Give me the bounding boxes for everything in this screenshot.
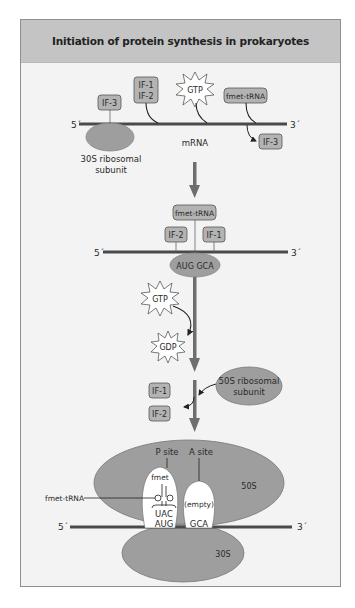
if3-label: IF-3 bbox=[102, 99, 117, 108]
large-subunit-label: 50S bbox=[241, 482, 256, 491]
gtp-connector bbox=[196, 103, 207, 123]
released-if1-label: IF-1 bbox=[152, 387, 167, 396]
codon-label: AUG GCA bbox=[176, 262, 214, 271]
if3-release-arrow bbox=[247, 125, 256, 141]
three-prime-label: 3´ bbox=[290, 120, 300, 130]
three-prime-label-4: 3´ bbox=[297, 522, 307, 532]
small-subunit-label: 30S bbox=[215, 550, 230, 559]
progress-arrow-2-head bbox=[189, 358, 200, 372]
if1-label: IF-1 bbox=[139, 81, 154, 90]
step-1-assembly: 5´ 3´ 30S ribosomal subunit IF-3 IF-1 IF… bbox=[71, 72, 300, 175]
progress-arrow-1 bbox=[189, 162, 200, 198]
fmet-trna-connector bbox=[246, 103, 256, 123]
step-2-initiation-complex: 5´ 3´ fmet-tRNA IF-2 IF-1 AUG GCA GTP GD… bbox=[94, 205, 301, 372]
if1-label-2: IF-1 bbox=[207, 231, 222, 240]
gdp-label: GDP bbox=[159, 343, 176, 352]
p-site-codon-label: AUG bbox=[155, 519, 174, 529]
progress-arrow-3-head bbox=[189, 418, 200, 432]
five-prime-label: 5´ bbox=[71, 120, 81, 130]
step-4-70s-complex: 5´ 3´ P site A site fmet fmet-tRNA (empt… bbox=[45, 440, 307, 582]
if1-if2-connector bbox=[146, 102, 158, 123]
released-if2-label: IF-2 bbox=[152, 410, 167, 419]
a-site-codon-label: GCA bbox=[190, 519, 209, 529]
fmet-trna-label: fmet-tRNA bbox=[226, 92, 266, 101]
subunit-50s-label-2: subunit bbox=[233, 387, 265, 397]
if2-label-2: IF-2 bbox=[169, 231, 184, 240]
protein-synthesis-diagram: 5´ 3´ 30S ribosomal subunit IF-3 IF-1 IF… bbox=[0, 0, 355, 608]
anticodon-label: UAC bbox=[155, 509, 173, 519]
five-prime-label-4: 5´ bbox=[58, 522, 68, 532]
gtp-label-2: GTP bbox=[152, 295, 168, 304]
a-site-label: A site bbox=[189, 447, 213, 457]
fmet-label: fmet bbox=[151, 473, 169, 482]
subunit-50s-label-1: 50S ribosomal bbox=[219, 376, 280, 386]
large-subunit-50s bbox=[216, 367, 282, 405]
gtp-label: GTP bbox=[187, 86, 203, 95]
p-site-label: P site bbox=[155, 447, 178, 457]
subunit-30s-label-2: subunit bbox=[95, 165, 127, 175]
if2-label: IF-2 bbox=[139, 92, 154, 101]
released-if3-label: IF-3 bbox=[263, 138, 278, 147]
small-subunit-30s bbox=[86, 123, 134, 151]
if-release-arrow bbox=[184, 397, 194, 407]
50s-joining-arrow bbox=[199, 384, 216, 395]
mrna-label: mRNA bbox=[182, 138, 209, 148]
five-prime-label-2: 5´ bbox=[94, 248, 104, 258]
empty-site-label: (empty) bbox=[184, 500, 214, 509]
subunit-30s-label-1: 30S ribosomal bbox=[81, 154, 142, 164]
fmet-trna-callout-label: fmet-tRNA bbox=[45, 494, 85, 503]
step-3-50s-joining: 50S ribosomal subunit IF-1 IF-2 bbox=[149, 367, 282, 432]
three-prime-label-2: 3´ bbox=[291, 248, 301, 258]
fmet-trna-label-2: fmet-tRNA bbox=[175, 209, 215, 218]
gtp-hydrolysis-arrow bbox=[173, 306, 191, 335]
progress-arrow-2-shaft bbox=[193, 277, 197, 360]
